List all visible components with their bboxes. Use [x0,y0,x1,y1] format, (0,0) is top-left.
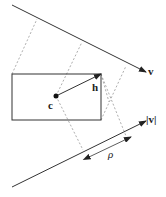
rho-label: ρ [108,149,113,160]
h-label: h [92,82,98,93]
v-label: v [148,66,154,77]
abs-v-axis-arrow [12,121,146,187]
c-label: c [48,100,53,111]
center-point [54,94,59,99]
abs-v-label: |v| [146,114,156,125]
projection-lines [12,19,126,150]
projection-diagram: v h c |v| ρ [0,0,166,197]
v-axis-arrow [12,5,146,72]
diagram-canvas [0,0,166,197]
